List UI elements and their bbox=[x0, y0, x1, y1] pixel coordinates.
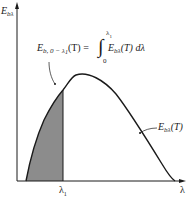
y-axis-arrow-icon bbox=[15, 2, 19, 9]
y-label-sub: bλ bbox=[7, 10, 14, 18]
lambda1-tick-label: λ1 bbox=[59, 185, 67, 197]
eq-lhs-arg: (T) = bbox=[68, 42, 89, 53]
equation-leader-line bbox=[49, 62, 55, 84]
blackbody-diagram bbox=[0, 0, 194, 201]
lambda1-sub: 1 bbox=[64, 191, 67, 197]
shaded-area bbox=[26, 90, 63, 181]
integral-sign: ∫ bbox=[98, 36, 103, 56]
integral-lower-limit: 0 bbox=[103, 58, 107, 65]
x-axis-arrow-icon bbox=[179, 179, 186, 183]
curve-label: Ebλ(T) bbox=[158, 122, 183, 134]
eq-lhs-sub: b, 0 − λ bbox=[43, 47, 65, 55]
integrand: Ebλ(T) dλ bbox=[108, 43, 145, 55]
integral-upper-limit: λ1 bbox=[106, 30, 112, 39]
lower-limit: 0 bbox=[103, 57, 107, 65]
upper-limit-sub: 1 bbox=[109, 34, 112, 39]
x-label-text: λ bbox=[180, 184, 185, 195]
integral-equation: Eb, 0 − λ1(T) = bbox=[37, 43, 89, 55]
integrand-arg: (T) dλ bbox=[121, 42, 145, 53]
integral-sign-glyph: ∫ bbox=[98, 35, 103, 57]
y-axis-label: Ebλ bbox=[1, 6, 14, 18]
curve-label-arg: (T) bbox=[171, 121, 183, 132]
x-axis-label: λ bbox=[180, 185, 185, 195]
